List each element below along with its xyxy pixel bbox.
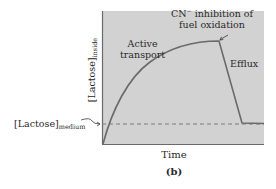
- medium-label-main: [Lactose]: [14, 118, 59, 129]
- efflux-annotation: Efflux: [230, 59, 258, 69]
- medium-label-subscript: medium: [59, 123, 86, 131]
- y-axis-label-subscript: inside: [91, 38, 99, 58]
- y-axis-label-main: [Lactose]: [86, 57, 97, 102]
- active-transport-line1: Active: [120, 38, 165, 49]
- x-axis-label: Time: [161, 150, 186, 160]
- cn-inhibition-annotation: CN− inhibition of fuel oxidation: [171, 5, 253, 30]
- active-transport-line2: transport: [120, 49, 165, 60]
- panel-label: (b): [166, 167, 182, 177]
- cn-suffix: inhibition of: [192, 8, 253, 19]
- cn-line1: CN− inhibition of: [171, 5, 253, 19]
- cn-line2: fuel oxidation: [171, 19, 253, 30]
- medium-reference-label: [Lactose]medium: [14, 119, 85, 131]
- active-transport-annotation: Active transport: [120, 38, 165, 60]
- cn-prefix: CN: [171, 8, 187, 19]
- y-axis-label: [Lactose]inside: [86, 38, 99, 102]
